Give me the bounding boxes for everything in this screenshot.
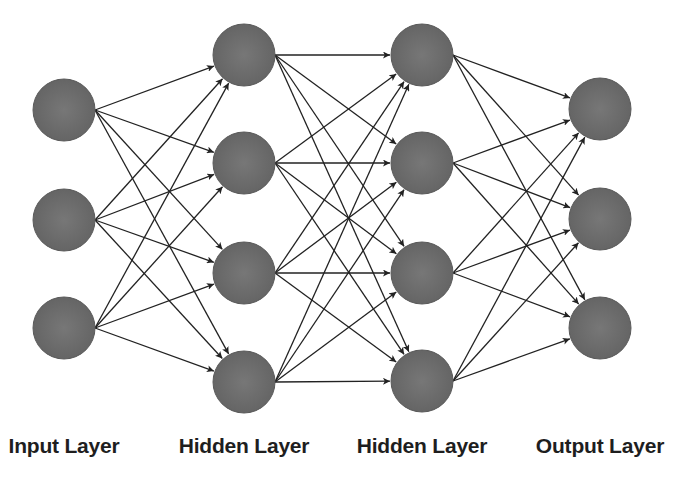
connection-arrow — [95, 66, 214, 110]
connection-arrow — [275, 84, 409, 382]
output-neuron-2 — [569, 188, 631, 250]
connection-arrow — [95, 83, 229, 328]
connection-arrow — [95, 284, 214, 328]
connection-arrow — [453, 55, 579, 195]
input-neuron-3 — [33, 297, 95, 359]
input-neuron-1 — [33, 79, 95, 141]
hidden2-neuron-4 — [391, 350, 453, 412]
connection-arrow — [453, 243, 578, 381]
connection-arrow — [95, 110, 214, 152]
connection-arrow — [95, 174, 214, 220]
connection-arrow — [275, 381, 390, 382]
hidden2-neuron-3 — [391, 242, 453, 304]
label-input-layer: Input Layer — [9, 434, 120, 458]
connection-arrow — [95, 220, 222, 358]
connection-arrow — [453, 230, 570, 273]
connection-arrow — [95, 79, 223, 220]
hidden1-neuron-1 — [213, 24, 275, 86]
connection-arrow — [453, 339, 570, 381]
hidden2-neuron-2 — [391, 132, 453, 194]
output-neuron-3 — [569, 297, 631, 359]
connection-arrow — [275, 55, 409, 352]
connection-arrow — [275, 273, 396, 362]
hidden1-neuron-2 — [213, 132, 275, 194]
connection-arrow — [275, 292, 396, 382]
label-hidden-layer-2: Hidden Layer — [357, 434, 488, 458]
connection-arrow — [275, 55, 396, 144]
neural-network-diagram — [0, 0, 690, 488]
connection-arrow — [95, 220, 214, 262]
connection-arrow — [453, 55, 570, 98]
connection-arrow — [453, 55, 585, 300]
label-output-layer: Output Layer — [536, 434, 664, 458]
connection-arrow — [453, 273, 570, 317]
hidden1-neuron-3 — [213, 242, 275, 304]
connection-arrow — [453, 163, 570, 208]
hidden2-neuron-1 — [391, 24, 453, 86]
input-neuron-2 — [33, 189, 95, 251]
hidden1-neuron-4 — [213, 351, 275, 413]
connection-arrow — [95, 328, 214, 371]
connection-arrow — [453, 120, 570, 163]
connection-arrow — [453, 137, 585, 381]
output-neuron-1 — [569, 78, 631, 140]
connections — [95, 55, 585, 382]
connection-arrow — [275, 74, 396, 163]
label-hidden-layer-1: Hidden Layer — [179, 434, 310, 458]
